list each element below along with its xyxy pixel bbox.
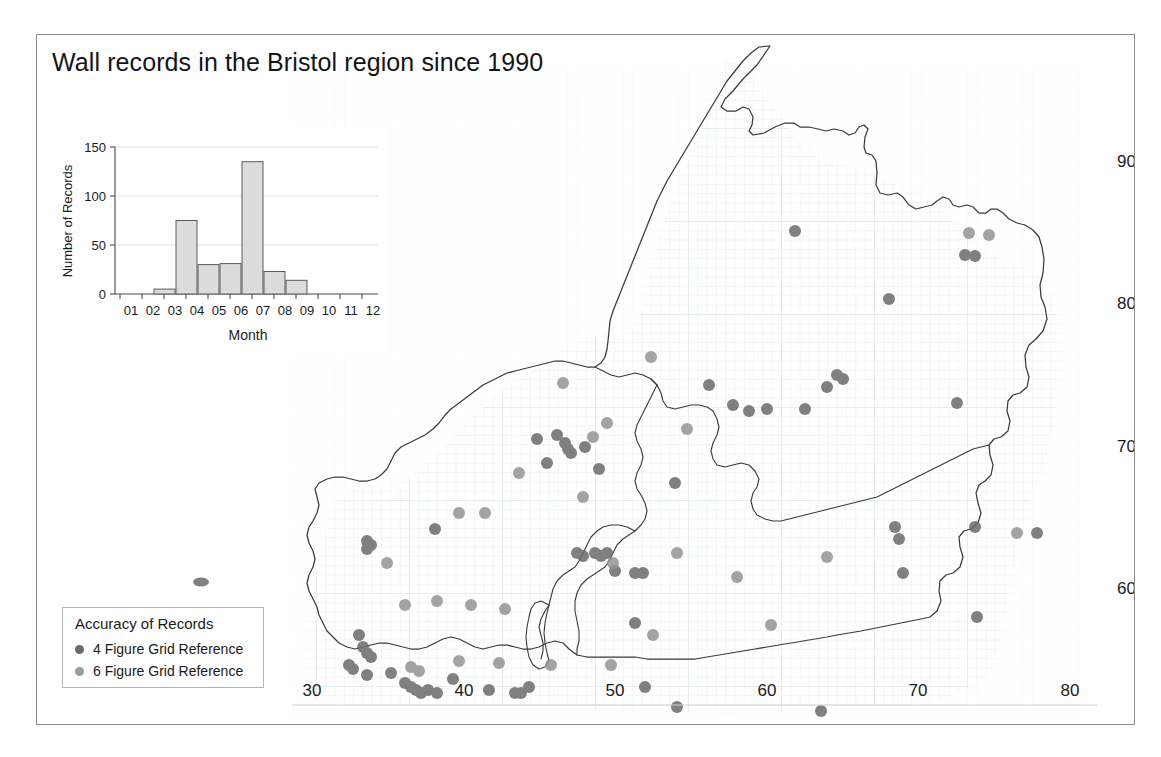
bar-ytick-0: 0	[99, 287, 106, 302]
legend-label-4-figure: 4 Figure Grid Reference	[93, 641, 243, 657]
bar-ytick-150: 150	[84, 140, 106, 155]
records-outlier	[193, 578, 209, 587]
bar-chart-xticks	[120, 294, 362, 299]
bar-xtick-11: 11	[344, 303, 358, 318]
map-xtick-1: 40	[455, 681, 474, 700]
legend-title: Accuracy of Records	[75, 615, 213, 632]
bar-xtick-12: 12	[366, 303, 380, 318]
bar-09	[264, 272, 285, 295]
bar-ytick-100: 100	[84, 189, 106, 204]
map-grid-outer	[292, 65, 1082, 715]
bar-xtick-10: 10	[322, 303, 336, 318]
bar-chart-svg: 150 100 50 0 Number of Records	[58, 128, 388, 356]
map-y-axis: 90 80 70 60	[1117, 152, 1134, 598]
map-xtick-0: 30	[303, 681, 322, 700]
bar-xtick-07: 07	[256, 303, 270, 318]
bar-xtick-02: 02	[146, 303, 160, 318]
map-ytick-1: 80	[1117, 294, 1134, 313]
map-legend: Accuracy of Records 4 Figure Grid Refere…	[62, 607, 264, 688]
bar-06	[198, 265, 219, 294]
map-xtick-5: 80	[1061, 681, 1080, 700]
bar-xtick-01: 01	[124, 303, 138, 318]
bar-chart-xlabel: Month	[229, 327, 268, 343]
legend-item-4-figure[interactable]: 4 Figure Grid Reference	[75, 639, 243, 659]
bar-chart-ylabel: Number of Records	[60, 164, 75, 277]
bar-04	[154, 289, 175, 294]
bar-xtick-05: 05	[212, 303, 226, 318]
map-ytick-0: 90	[1117, 152, 1134, 171]
map-xtick-3: 60	[758, 681, 777, 700]
map-xtick-2: 50	[606, 681, 625, 700]
bar-08	[242, 162, 263, 294]
monthly-records-bar-chart: 150 100 50 0 Number of Records	[58, 128, 388, 356]
bar-05	[176, 221, 197, 295]
legend-dot-4-figure-icon	[75, 645, 84, 654]
bar-xtick-04: 04	[190, 303, 204, 318]
bar-ytick-50: 50	[92, 238, 106, 253]
bar-xtick-06: 06	[234, 303, 248, 318]
bar-xtick-03: 03	[168, 303, 182, 318]
map-xtick-4: 70	[909, 681, 928, 700]
bar-chart-bars	[154, 162, 307, 294]
map-ytick-2: 70	[1117, 437, 1134, 456]
bar-xtick-09: 09	[300, 303, 314, 318]
page-title: Wall records in the Bristol region since…	[52, 48, 543, 77]
legend-dot-6-figure-icon	[75, 667, 84, 676]
legend-label-6-figure: 6 Figure Grid Reference	[93, 663, 243, 679]
bar-10	[286, 280, 307, 294]
bar-07	[220, 264, 241, 294]
bar-xtick-08: 08	[278, 303, 292, 318]
figure-root: 30 40 50 60 70 80 90 80 70 60 Wall recor…	[0, 0, 1161, 757]
map-ytick-3: 60	[1117, 579, 1134, 598]
bar-chart-yticks	[110, 147, 115, 294]
legend-item-6-figure[interactable]: 6 Figure Grid Reference	[75, 661, 243, 681]
